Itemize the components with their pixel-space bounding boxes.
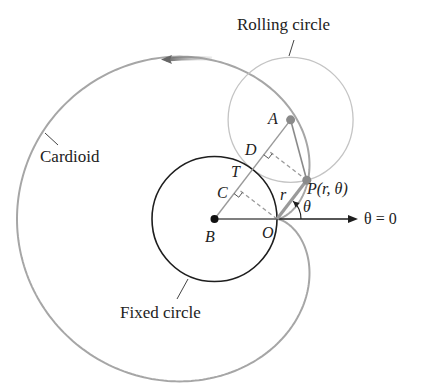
label-A: A: [267, 110, 278, 127]
leader-rolling-circle: [289, 40, 294, 56]
line-AP: [291, 120, 307, 180]
leader-cardioid: [45, 133, 58, 145]
point-B: [211, 215, 219, 223]
label-rolling-circle: Rolling circle: [237, 15, 330, 34]
right-angle-marker-C: [234, 192, 242, 197]
label-P: P(r, θ): [306, 180, 348, 198]
label-D: D: [244, 141, 257, 158]
label-r: r: [280, 186, 287, 203]
point-A: [286, 115, 295, 124]
label-theta: θ: [303, 198, 311, 215]
dashed-line-PD: [267, 150, 306, 180]
polar-axis-arrow-icon: [348, 215, 358, 223]
leader-fixed-circle: [177, 279, 188, 299]
label-fixed-circle: Fixed circle: [120, 303, 201, 322]
label-O: O: [262, 224, 274, 241]
line-BA: [215, 120, 291, 219]
cardioid-diagram: Rolling circle Cardioid Fixed circle A D…: [0, 0, 423, 392]
label-cardioid: Cardioid: [40, 147, 100, 166]
label-polar-axis: θ = 0: [364, 210, 397, 227]
label-T: T: [231, 163, 241, 180]
right-angle-marker-D: [264, 154, 272, 159]
label-B: B: [205, 228, 215, 245]
label-C: C: [217, 184, 228, 201]
